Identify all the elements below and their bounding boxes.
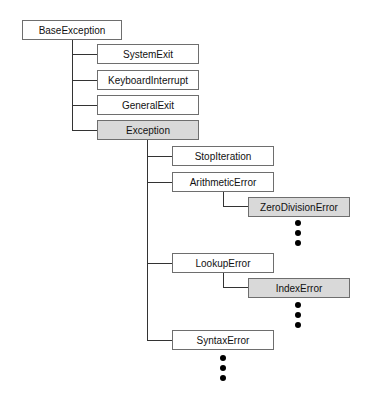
connector-to-systemexit [72, 54, 97, 55]
connector-to-zerodivisionerror [223, 206, 248, 207]
connector-to-lookuperror [147, 263, 172, 264]
connector-arith-trunk [223, 192, 224, 207]
connector-to-exception [72, 130, 97, 131]
node-baseexception: BaseException [22, 20, 122, 40]
connector-to-keyboardinterrupt [72, 80, 97, 81]
node-lookuperror: LookupError [172, 253, 274, 273]
connector-exception-trunk [147, 140, 148, 341]
connector-to-generalexit [72, 105, 97, 106]
node-zerodivisionerror: ZeroDivisionError [248, 197, 350, 217]
node-keyboardinterrupt: KeyboardInterrupt [97, 70, 199, 90]
node-stopiteration: StopIteration [172, 146, 274, 166]
node-exception: Exception [97, 120, 199, 140]
connector-to-syntaxerror [147, 340, 172, 341]
node-arithmeticerror: ArithmeticError [172, 172, 274, 192]
node-systemexit: SystemExit [97, 44, 199, 64]
connector-to-stopiteration [147, 156, 172, 157]
node-indexerror: IndexError [248, 278, 350, 298]
connector-to-indexerror [223, 287, 248, 288]
node-syntaxerror: SyntaxError [172, 330, 274, 350]
connector-to-arithmeticerror [147, 182, 172, 183]
connector-lookup-trunk [223, 273, 224, 288]
node-generalexit: GeneralExit [97, 95, 199, 115]
